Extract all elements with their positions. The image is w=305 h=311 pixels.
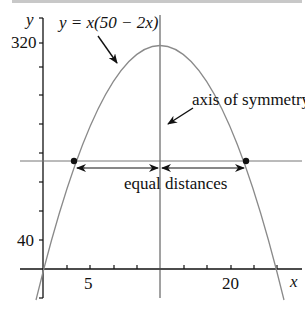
x-tick-label-5: 5 [84, 275, 93, 292]
y-tick-label-320: 320 [11, 34, 37, 51]
y-axis [39, 18, 43, 298]
equal-distances-label: equal distances [124, 175, 227, 192]
intersection-point-right [243, 158, 249, 164]
intersection-point-left [71, 158, 77, 164]
equation-pointer-arrow [98, 36, 117, 63]
x-axis-label: x [290, 273, 298, 290]
y-tick-label-40: 40 [17, 232, 34, 249]
parabola-diagram [0, 0, 305, 311]
axis-of-symmetry-label: axis of symmetry [192, 91, 305, 108]
y-axis-label: y [26, 11, 34, 28]
x-tick-label-20: 20 [222, 275, 239, 292]
equation-label: y = x(50 − 2x) [59, 14, 158, 31]
x-axis [20, 265, 302, 269]
axis-pointer-arrow [168, 108, 193, 124]
